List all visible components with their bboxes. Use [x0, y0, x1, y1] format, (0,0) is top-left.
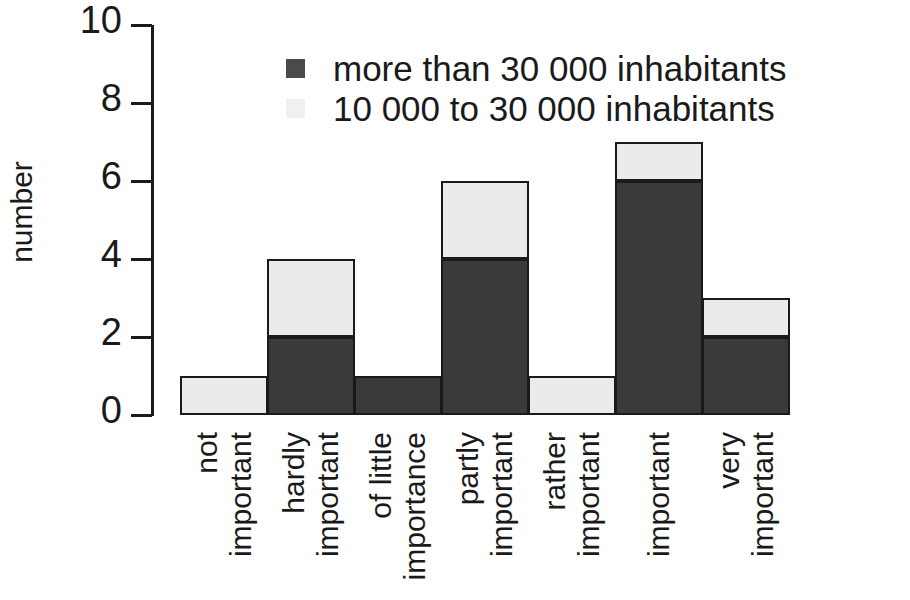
x-category-label: important	[615, 432, 703, 600]
x-category-label: ratherimportant	[528, 432, 616, 600]
bar-segment-dark	[267, 337, 355, 415]
legend-label: more than 30 000 inhabitants	[333, 51, 786, 86]
legend-item: 10 000 to 30 000 inhabitants	[286, 88, 786, 128]
bar-partly-important	[441, 181, 529, 415]
bar-hardly-important	[267, 259, 355, 415]
bar-segment-light	[702, 298, 790, 337]
y-tick-mark	[131, 336, 152, 339]
bar-segment-light	[180, 376, 268, 415]
bar-segment-light	[615, 142, 703, 181]
bar-rather-important	[528, 376, 616, 415]
x-category-label: partlyimportant	[441, 432, 529, 600]
bar-of-little-importance	[354, 376, 442, 415]
legend-label: 10 000 to 30 000 inhabitants	[333, 91, 775, 126]
y-axis-title: number	[5, 132, 39, 292]
y-tick-mark	[131, 258, 152, 261]
bar-important	[615, 142, 703, 415]
y-tick-mark	[131, 24, 152, 27]
bar-segment-dark	[354, 376, 442, 415]
legend-swatch-dark-icon	[286, 59, 305, 78]
y-tick-mark	[131, 102, 152, 105]
legend: more than 30 000 inhabitants 10 000 to 3…	[286, 48, 786, 128]
y-axis-line	[151, 25, 154, 416]
legend-swatch-light-icon	[286, 99, 305, 118]
bar-segment-dark	[441, 259, 529, 415]
bar-very-important	[702, 298, 790, 415]
x-category-label: notimportant	[180, 432, 268, 600]
bar-not-important	[180, 376, 268, 415]
x-category-label: of littleimportance	[354, 432, 442, 600]
x-category-label: hardlyimportant	[267, 432, 355, 600]
y-tick-mark	[131, 414, 152, 417]
bar-segment-light	[528, 376, 616, 415]
bar-chart: number 0246810 notimportanthardlyimporta…	[0, 0, 910, 600]
bar-segment-light	[267, 259, 355, 337]
x-category-label: veryimportant	[702, 432, 790, 600]
bar-segment-light	[441, 181, 529, 259]
y-tick-mark	[131, 180, 152, 183]
bar-segment-dark	[615, 181, 703, 415]
bar-segment-dark	[702, 337, 790, 415]
legend-item: more than 30 000 inhabitants	[286, 48, 786, 88]
